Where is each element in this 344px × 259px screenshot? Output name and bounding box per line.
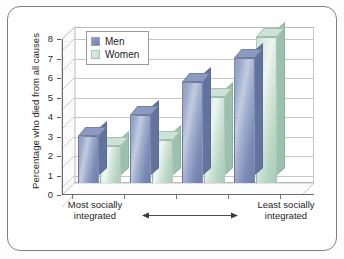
gridline-depth: [62, 176, 74, 188]
bar-group: [234, 39, 286, 195]
x-axis-line: [62, 194, 314, 195]
bar-side-face: [255, 43, 263, 175]
legend-item-men: Men: [91, 35, 139, 48]
chart-side-wall: [62, 27, 75, 195]
gridline-depth: [62, 39, 74, 51]
bar-side-face: [225, 82, 233, 175]
x-tick-mark: [280, 195, 281, 199]
y-tick-label: 1: [41, 171, 53, 181]
bar-front-face: [130, 115, 151, 183]
bar-side-face: [277, 22, 285, 175]
social-integration-gradient-arrow-icon: [142, 211, 238, 220]
legend-swatch-women-icon: [91, 50, 100, 59]
x-tick-mark: [228, 195, 229, 199]
y-tick-mark: [57, 59, 61, 60]
y-tick-mark: [57, 39, 61, 40]
gridline-depth: [62, 137, 74, 149]
y-tick-mark: [57, 78, 61, 79]
x-tick-mark: [176, 195, 177, 199]
bar-front-face: [78, 136, 99, 183]
y-tick-mark: [57, 176, 61, 177]
y-tick-label: 5: [41, 93, 53, 103]
y-tick-label: 8: [41, 34, 53, 44]
y-tick-label: 4: [41, 112, 53, 122]
y-tick-mark: [57, 156, 61, 157]
x-tick-mark: [124, 195, 125, 199]
gridline-depth: [62, 78, 74, 90]
bar-front-face: [234, 58, 255, 183]
gridline-depth: [62, 59, 74, 71]
gridline-depth: [62, 156, 74, 168]
legend-label-women: Women: [105, 49, 139, 60]
y-tick-label: 7: [41, 54, 53, 64]
figure-container: Percentage who died from all causes 0123…: [0, 0, 344, 259]
y-axis-title: Percentage who died from all causes: [30, 33, 41, 189]
chart-legend: Men Women: [86, 31, 149, 65]
bar-front-face: [182, 82, 203, 183]
bar-group: [182, 39, 234, 195]
y-tick-mark: [57, 195, 61, 196]
gridline-depth: [62, 117, 74, 129]
y-tick-mark: [57, 117, 61, 118]
y-tick-label: 6: [41, 73, 53, 83]
x-axis-label-right: Least socially integrated: [243, 199, 329, 221]
y-tick-mark: [57, 98, 61, 99]
legend-label-men: Men: [105, 36, 124, 47]
x-axis-label-left: Most socially integrated: [52, 199, 138, 221]
y-tick-mark: [57, 137, 61, 138]
y-tick-label: 2: [41, 151, 53, 161]
x-tick-mark: [72, 195, 73, 199]
y-tick-label: 3: [41, 132, 53, 142]
y-axis-line: [62, 39, 63, 195]
legend-item-women: Women: [91, 48, 139, 61]
gridline-depth: [62, 98, 74, 110]
bar-side-face: [203, 67, 211, 175]
legend-swatch-men-icon: [91, 37, 100, 46]
